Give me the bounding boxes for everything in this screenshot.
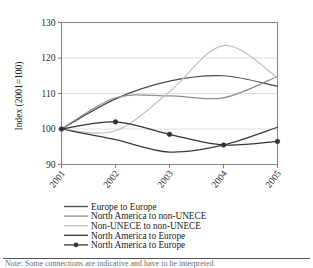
data-point-marker-north-america-to-europe-2002	[113, 120, 118, 125]
legend-label-3-north-america-to-europe: North America to Europe	[91, 231, 185, 241]
y-tick-label-110: 110	[42, 89, 56, 99]
y-tick-label-100: 100	[41, 124, 56, 134]
legend-marker-4-north-america-to-europe	[74, 243, 79, 248]
data-point-marker-north-america-to-europe-2005	[275, 139, 280, 144]
y-axis-label: Index (2001=100)	[14, 62, 25, 131]
data-point-marker-north-america-to-europe-2004	[221, 143, 226, 148]
legend-label-4-north-america-to-europe: North America to Europe	[91, 240, 185, 250]
legend-label-1-north-america-to-non-unece: North America to non-UNECE	[91, 211, 207, 221]
legend-label-2-non-unece-to-non-unece: Non-UNECE to non-UNECE	[91, 221, 201, 231]
data-point-marker-north-america-to-europe-2001	[59, 127, 64, 132]
chart-figure: 90100110120130 20012002200320042005 Inde…	[0, 0, 313, 268]
data-point-marker-north-america-to-europe-2003	[167, 132, 172, 137]
legend-label-0-europe-to-europe: Europe to Europe	[91, 202, 157, 212]
y-tick-label-120: 120	[41, 53, 56, 63]
line-chart: 90100110120130 20012002200320042005 Inde…	[0, 0, 313, 268]
y-tick-label-90: 90	[46, 160, 56, 170]
y-tick-label-130: 130	[41, 18, 56, 28]
figure-caption: Note: Some connections are indicative an…	[5, 259, 214, 268]
